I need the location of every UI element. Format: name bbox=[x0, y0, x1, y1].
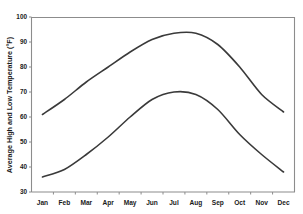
chart-background bbox=[0, 0, 303, 214]
x-axis-tick-label: May bbox=[124, 199, 137, 207]
x-axis-tick-label: Apr bbox=[103, 199, 115, 207]
y-axis-tick-label: 40 bbox=[20, 163, 28, 170]
x-axis-tick-label: Jun bbox=[146, 199, 158, 206]
y-axis-tick-label: 90 bbox=[20, 38, 28, 45]
x-axis-tick-label: Oct bbox=[234, 199, 246, 206]
y-axis-tick-label: 70 bbox=[20, 88, 28, 95]
x-axis-tick-label: Aug bbox=[189, 199, 202, 207]
y-axis-tick-label: 60 bbox=[20, 113, 28, 120]
y-axis-tick-label: 100 bbox=[16, 13, 27, 20]
x-axis-tick-label: Mar bbox=[80, 199, 92, 206]
x-axis-tick-label: Jan bbox=[37, 199, 48, 206]
y-axis-tick-label: 50 bbox=[20, 138, 28, 145]
chart-page: Average High and Low Temperature (°F) 30… bbox=[0, 0, 303, 214]
x-axis-tick-label: Nov bbox=[255, 199, 268, 206]
x-axis-tick-label: Feb bbox=[59, 199, 71, 206]
y-axis-tick-label: 30 bbox=[20, 188, 28, 195]
y-axis-label: Average High and Low Temperature (°F) bbox=[5, 36, 14, 173]
y-axis-label-text: Average High and Low Temperature (°F) bbox=[5, 36, 14, 173]
x-axis-tick-label: Jul bbox=[169, 199, 179, 206]
y-axis-tick-label: 80 bbox=[20, 63, 28, 70]
x-axis-tick-label: Sep bbox=[212, 199, 224, 207]
temperature-line-chart: Average High and Low Temperature (°F) 30… bbox=[0, 0, 303, 214]
x-axis-tick-label: Dec bbox=[277, 199, 289, 206]
